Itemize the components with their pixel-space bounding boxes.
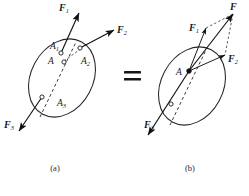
application-point-a2 — [78, 46, 82, 50]
panel-caption-a: (a) — [50, 163, 60, 173]
application-point-a3 — [40, 95, 44, 99]
figure-canvas: F1 F2 F3 A A1 A2 A3 (a) — [0, 0, 249, 196]
parallelogram-dashed-side-1 — [206, 14, 233, 28]
label-force-f2-a: F2 — [116, 24, 128, 36]
parallelogram-dashed-side-2 — [225, 14, 233, 55]
equals-bar-top — [124, 71, 141, 74]
force-vector-f1-a — [61, 13, 79, 53]
reference-point-a — [62, 60, 66, 64]
figure-root: F1 F2 F3 A A1 A2 A3 (a) — [0, 0, 249, 196]
label-force-resultant-f-b: F — [229, 1, 237, 12]
equals-bar-bottom — [124, 78, 141, 81]
label-point-a2: A2 — [80, 56, 91, 67]
application-point-a-b — [187, 69, 192, 74]
label-force-f3-b: F3 — [143, 119, 155, 131]
rigid-body-outline-b — [145, 35, 238, 137]
panel-a: F1 F2 F3 A A1 A2 A3 (a) — [3, 2, 128, 173]
label-force-f1-a: F1 — [58, 2, 69, 14]
label-force-f3-a: F3 — [3, 119, 15, 131]
equals-sign — [124, 71, 141, 81]
label-force-f1-b: F1 — [188, 22, 199, 34]
label-point-a1: A1 — [49, 41, 59, 52]
label-point-a-b: A — [175, 67, 182, 77]
label-point-a: A — [47, 56, 54, 66]
panel-b: F F1 F2 F3 A (b) — [143, 1, 239, 173]
force-vector-f3-a — [19, 97, 42, 131]
label-force-f2-b: F2 — [227, 53, 239, 65]
rigid-body-outline-a — [15, 27, 108, 129]
reference-point-interior-b — [169, 102, 173, 106]
force-vector-f2-a — [80, 30, 114, 48]
line-of-action-dashed-b — [170, 50, 206, 125]
panel-caption-b: (b) — [185, 163, 195, 173]
label-point-a3: A3 — [56, 98, 67, 109]
application-point-a1 — [59, 51, 63, 55]
